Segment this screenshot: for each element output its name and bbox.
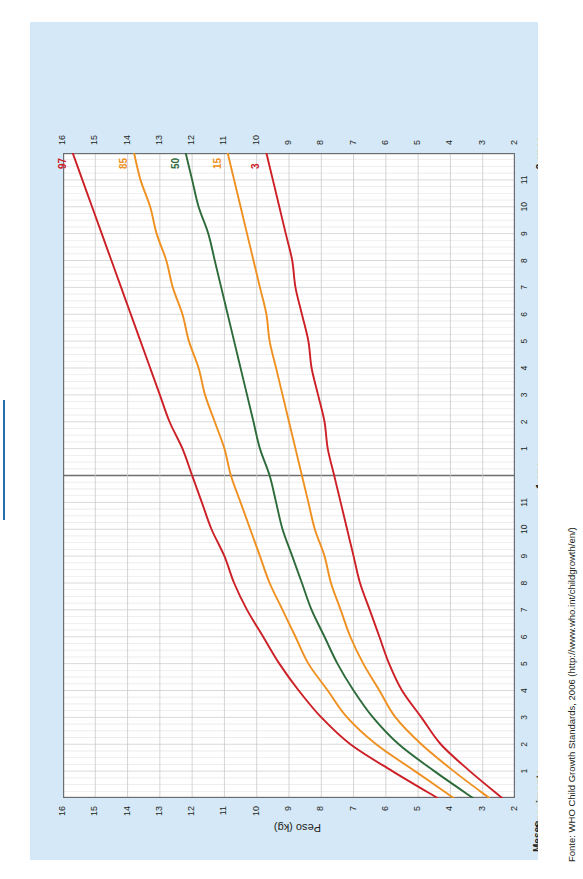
age-major-label: Nascimento — [534, 768, 538, 828]
weight-tick-label: 11 — [218, 123, 228, 145]
weight-tick-label: 7 — [348, 123, 358, 145]
growth-chart-figure: 2345678910111213141516 23456789101112131… — [30, 22, 538, 860]
weight-tick-label: 4 — [444, 806, 454, 828]
age-tick-label: 8 — [519, 573, 529, 593]
weight-tick-label: 15 — [89, 806, 99, 828]
rotated-chart-stage: 2345678910111213141516 23456789101112131… — [30, 22, 538, 860]
weight-tick-label: 12 — [186, 806, 196, 828]
weight-tick-label: 6 — [380, 806, 390, 828]
age-tick-label: 11 — [519, 170, 529, 190]
age-tick-label: 6 — [519, 304, 529, 324]
weight-tick-label: 7 — [348, 806, 358, 828]
age-tick-label: 1 — [519, 439, 529, 459]
weight-tick-label: 14 — [122, 123, 132, 145]
age-tick-label: 3 — [519, 707, 529, 727]
percentile-label-85: 85 — [118, 158, 129, 169]
age-tick-label: 6 — [519, 627, 529, 647]
age-major-label: 1 ano — [534, 462, 538, 489]
age-tick-label: 9 — [519, 546, 529, 566]
source-note: Fonte: WHO Child Growth Standards, 2006 … — [566, 527, 577, 862]
weight-tick-label: 13 — [154, 806, 164, 828]
weight-tick-label: 13 — [154, 123, 164, 145]
months-caption: Meses — [532, 821, 538, 852]
weight-tick-label: 14 — [122, 806, 132, 828]
weight-tick-label: 2 — [509, 123, 519, 145]
weight-tick-label: 3 — [477, 123, 487, 145]
weight-tick-label: 6 — [380, 123, 390, 145]
age-tick-label: 9 — [519, 224, 529, 244]
age-tick-label: 2 — [519, 412, 529, 432]
age-tick-label: 5 — [519, 331, 529, 351]
y-axis-title: Peso (kg) — [274, 822, 321, 834]
weight-tick-label: 4 — [444, 123, 454, 145]
age-tick-label: 11 — [519, 492, 529, 512]
age-tick-label: 7 — [519, 600, 529, 620]
weight-tick-label: 9 — [283, 123, 293, 145]
weight-tick-label: 16 — [57, 123, 67, 145]
weight-tick-label: 10 — [251, 123, 261, 145]
age-tick-label: 1 — [519, 761, 529, 781]
weight-tick-label: 2 — [509, 806, 519, 828]
weight-tick-label: 16 — [57, 806, 67, 828]
percentile-label-3: 3 — [250, 163, 261, 169]
age-tick-label: 10 — [519, 197, 529, 217]
weight-tick-label: 11 — [218, 806, 228, 828]
weight-tick-label: 5 — [412, 806, 422, 828]
age-tick-label: 4 — [519, 358, 529, 378]
age-major-label: 2 anos — [534, 136, 538, 169]
plot-svg — [63, 153, 515, 798]
left-margin-rule — [3, 400, 5, 520]
weight-tick-label: 12 — [186, 123, 196, 145]
weight-tick-label: 15 — [89, 123, 99, 145]
age-tick-label: 8 — [519, 251, 529, 271]
age-tick-label: 2 — [519, 734, 529, 754]
weight-tick-label: 5 — [412, 123, 422, 145]
age-tick-label: 3 — [519, 385, 529, 405]
weight-tick-label: 8 — [315, 123, 325, 145]
percentile-label-97: 97 — [57, 158, 68, 169]
age-tick-label: 10 — [519, 519, 529, 539]
percentile-label-50: 50 — [170, 158, 181, 169]
plot-area — [63, 153, 515, 798]
age-tick-label: 7 — [519, 277, 529, 297]
age-tick-label: 4 — [519, 681, 529, 701]
percentile-label-15: 15 — [212, 158, 223, 169]
weight-tick-label: 10 — [251, 806, 261, 828]
age-tick-label: 5 — [519, 654, 529, 674]
weight-tick-label: 3 — [477, 806, 487, 828]
